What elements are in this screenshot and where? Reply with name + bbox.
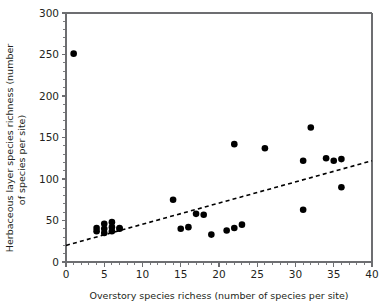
data-point — [330, 157, 337, 164]
y-tick-label: 150 — [39, 131, 59, 143]
scatter-plot-figure: 050100150200250300 0510152025303540 Herb… — [0, 0, 388, 306]
data-point — [223, 227, 230, 234]
data-point — [231, 141, 238, 148]
data-point — [101, 230, 108, 237]
data-point — [208, 231, 215, 238]
data-point — [116, 226, 123, 233]
data-point — [193, 211, 200, 218]
y-tick-label: 0 — [52, 256, 59, 268]
x-tick-label: 15 — [174, 268, 187, 280]
data-point — [300, 157, 307, 164]
x-axis-title: Overstory species richess (number of spe… — [89, 290, 348, 301]
y-axis-title-line-1: Herbaceous layer species richness (numbe… — [4, 44, 15, 252]
x-tick-label: 40 — [365, 268, 378, 280]
data-point — [231, 225, 238, 232]
data-point — [262, 145, 269, 152]
x-tick-label: 0 — [63, 268, 70, 280]
y-tick-label: 50 — [46, 214, 59, 226]
y-tick-label: 100 — [39, 173, 59, 185]
x-axis-tick-labels: 0510152025303540 — [63, 268, 379, 280]
data-point — [200, 211, 207, 218]
data-point — [338, 156, 345, 163]
y-axis-tick-labels: 050100150200250300 — [39, 7, 59, 268]
data-point — [239, 221, 246, 228]
data-point — [70, 50, 77, 57]
x-tick-label: 35 — [327, 268, 340, 280]
y-axis-title-line-2: of species per site) — [16, 115, 27, 205]
data-point — [109, 228, 116, 235]
data-point — [338, 184, 345, 191]
data-point — [185, 224, 192, 231]
x-tick-label: 30 — [289, 268, 302, 280]
y-tick-label: 200 — [39, 90, 59, 102]
x-tick-label: 25 — [251, 268, 264, 280]
data-point — [308, 124, 315, 131]
chart-canvas: 050100150200250300 0510152025303540 Herb… — [0, 0, 388, 306]
x-tick-label: 10 — [136, 268, 149, 280]
data-point — [93, 228, 100, 235]
x-tick-label: 5 — [101, 268, 108, 280]
data-point — [177, 226, 184, 233]
data-point — [170, 196, 177, 203]
data-point — [323, 155, 330, 162]
data-point — [300, 206, 307, 213]
y-tick-label: 300 — [39, 7, 59, 19]
y-tick-label: 250 — [39, 48, 59, 60]
x-tick-label: 20 — [212, 268, 225, 280]
data-points-group — [70, 50, 344, 238]
y-axis-major-ticks — [62, 13, 67, 262]
